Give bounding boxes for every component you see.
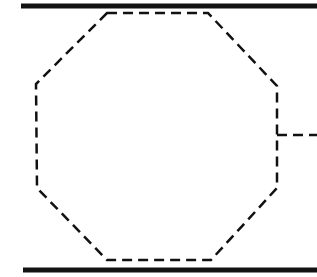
octagon-diagram	[0, 0, 317, 277]
dashed-octagon	[36, 13, 277, 260]
